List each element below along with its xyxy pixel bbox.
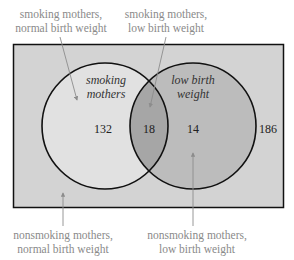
count-low-weight-only: 14: [187, 122, 199, 136]
count-neither: 186: [259, 122, 277, 136]
venn-diagram: smoking mothers low birth weight 132 18 …: [0, 0, 294, 260]
set-label-smoking: smoking: [86, 73, 126, 87]
set-label-smoking: mothers: [87, 87, 126, 101]
set-label-low-weight: weight: [177, 87, 210, 101]
count-smoking-only: 132: [94, 122, 112, 136]
set-label-low-weight: low birth: [171, 73, 215, 87]
count-both: 18: [143, 122, 155, 136]
